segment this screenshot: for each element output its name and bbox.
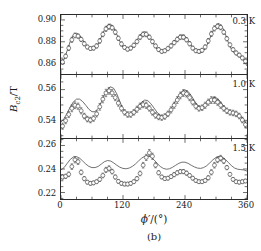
y-axis-unit: /T <box>8 86 19 96</box>
plot-panel-1.0K <box>60 74 248 138</box>
plot-area-0.3K <box>61 15 247 74</box>
y-tick-label-0.22: 0.22 <box>20 189 56 198</box>
plot-area-1.5K <box>61 139 247 199</box>
temperature-label-1.5K: 1.5 K <box>232 144 255 153</box>
y-tick-label-0.86: 0.86 <box>20 59 56 68</box>
y-tick-label-0.88: 0.88 <box>20 37 56 46</box>
figure-panel-b: Bc2/T 0.3 K 1.0 K 1.5 K 0.900.880.860.56… <box>0 0 261 251</box>
temperature-label-0.3K: 0.3 K <box>232 17 255 26</box>
temperature-label-1.0K: 1.0 K <box>232 80 255 89</box>
plot-area-1.0K <box>61 75 247 138</box>
x-tick-label-240: 240 <box>169 201 199 210</box>
y-tick-label-0.54: 0.54 <box>20 116 56 125</box>
y-axis-subscript: c2 <box>14 96 22 104</box>
y-axis-symbol: B <box>8 105 19 112</box>
x-tick-label-120: 120 <box>107 201 137 210</box>
plot-panel-0.3K <box>60 14 248 74</box>
plot-panel-1.5K <box>60 138 248 200</box>
figure-caption: (b) <box>60 232 248 242</box>
data-series-1.5 K <box>61 149 247 186</box>
x-tick-label-0: 0 <box>45 201 75 210</box>
x-axis-symbol: ϕ′ <box>141 213 151 225</box>
y-tick-label-0.90: 0.90 <box>20 15 56 24</box>
y-tick-label-0.24: 0.24 <box>20 165 56 174</box>
x-axis-title: ϕ′/(°) <box>60 214 248 225</box>
x-tick-label-360: 360 <box>231 201 261 210</box>
x-axis-unit: /(°) <box>150 213 167 225</box>
y-tick-label-0.56: 0.56 <box>20 84 56 93</box>
y-tick-label-0.26: 0.26 <box>20 140 56 149</box>
